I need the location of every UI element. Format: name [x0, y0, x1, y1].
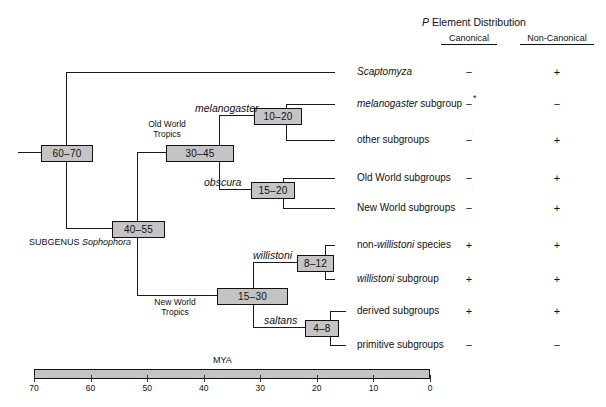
mya-tick-label-70: 70 — [24, 384, 44, 393]
clade-label-obscura: obscura — [204, 176, 241, 188]
mark-non-canonical-old-world-subgroups: + — [550, 173, 564, 184]
subgenus-label-prefix: SUBGENUS — [29, 237, 82, 247]
node-box-willistoni: 8–12 — [297, 255, 334, 272]
mark-non-canonical-other-subgroups: + — [550, 135, 564, 146]
mark-non-canonical-scaptomyza: + — [550, 67, 564, 78]
mark-canonical-scaptomyza: − — [462, 67, 476, 78]
mark-canonical-derived-subgroups: + — [462, 306, 476, 317]
mark-value: + — [554, 66, 560, 78]
node-box-sophophora: 40–55 — [112, 221, 165, 238]
mya-tick-0 — [430, 375, 431, 382]
mark-non-canonical-primitive-subgroups: − — [550, 340, 564, 351]
subgenus-label: SUBGENUS Sophophora — [29, 237, 131, 247]
branch-obscura — [219, 189, 252, 190]
geo-label-old-world-tropics: Old World Tropics — [137, 119, 197, 139]
geo-label-new-world-tropics: New World Tropics — [145, 297, 205, 317]
distribution-title: P Element Distribution — [422, 16, 526, 28]
branch-melanogaster — [219, 115, 255, 116]
mark-non-canonical-non-willistoni-species: + — [550, 240, 564, 251]
mya-tick-20 — [317, 375, 318, 382]
column-header-non-canonical: Non-Canonical — [520, 33, 594, 45]
mark-value: − — [466, 172, 472, 184]
taxon-old-world-subgroups-pre: Old World subgroups — [357, 172, 451, 183]
mark-value: − — [466, 66, 472, 78]
column-header-canonical: Canonical — [441, 33, 497, 45]
mark-value: + — [554, 239, 560, 251]
taxon-willistoni-subgroup-italic: willistoni — [357, 273, 394, 284]
branch-new-world-subgroups — [283, 208, 335, 209]
mark-value: + — [554, 172, 560, 184]
mark-value: − — [466, 134, 472, 146]
node-box-root: 60–70 — [41, 145, 93, 162]
scale-unit-label: MYA — [213, 355, 232, 365]
branch-scaptomyza — [66, 72, 335, 73]
mark-canonical-other-subgroups: − — [462, 135, 476, 146]
mark-canonical-melanogaster-subgroup: −* — [462, 99, 476, 110]
taxon-label-derived-subgroups: derived subgroups — [357, 305, 439, 316]
mark-value: + — [554, 305, 560, 317]
mya-tick-label-10: 10 — [363, 384, 383, 393]
mya-tick-70 — [34, 375, 35, 382]
mya-tick-label-50: 50 — [137, 384, 157, 393]
distribution-title-gene: P — [422, 16, 429, 28]
branch-saltans — [253, 327, 306, 328]
node-box-new-world: 15–30 — [217, 288, 288, 305]
mark-value: + — [554, 273, 560, 285]
mya-tick-30 — [260, 375, 261, 382]
clade-label-melanogaster: melanogaster — [195, 102, 259, 114]
geo-label-new-world-line1: New World — [145, 297, 205, 307]
mark-non-canonical-melanogaster-subgroup: − — [550, 99, 564, 110]
mark-canonical-willistoni-subgroup: + — [462, 274, 476, 285]
branch-willistoni — [253, 262, 298, 263]
mya-tick-40 — [204, 375, 205, 382]
root-stub-branch — [18, 152, 42, 153]
taxon-willistoni-subgroup-post: subgroup — [394, 273, 438, 284]
subgenus-label-name: Sophophora — [82, 237, 131, 247]
mark-non-canonical-new-world-subgroups: + — [550, 203, 564, 214]
mya-tick-label-0: 0 — [420, 384, 440, 393]
taxon-new-world-subgroups-pre: New World subgroups — [357, 202, 455, 213]
node-box-melanogaster: 10–20 — [254, 108, 302, 125]
taxon-label-scaptomyza: Scaptomyza — [357, 66, 412, 77]
geo-label-old-world-line1: Old World — [137, 119, 197, 129]
taxon-label-new-world-subgroups: New World subgroups — [357, 202, 455, 213]
taxon-scaptomyza-italic: Scaptomyza — [357, 66, 412, 77]
taxon-label-primitive-subgroups: primitive subgroups — [357, 339, 444, 350]
branch-derived-subgroups — [330, 311, 346, 312]
taxon-non-willistoni-post: species — [414, 239, 451, 250]
geo-label-new-world-line2: Tropics — [145, 307, 205, 317]
branch-old-world-subgroups — [283, 178, 335, 179]
taxon-non-willistoni-italic: willistoni — [377, 239, 414, 250]
mya-scale-bar — [34, 369, 430, 379]
taxon-other-subgroups-pre: other subgroups — [357, 134, 429, 145]
taxon-label-non-willistoni-species: non-willistoni species — [357, 239, 451, 250]
distribution-title-rest: Element Distribution — [429, 16, 526, 28]
mya-tick-label-40: 40 — [194, 384, 214, 393]
mark-canonical-primitive-subgroups: − — [462, 340, 476, 351]
mark-value: − — [554, 98, 560, 110]
mark-value: + — [554, 134, 560, 146]
mark-canonical-new-world-subgroups: − — [462, 203, 476, 214]
taxon-label-other-subgroups: other subgroups — [357, 134, 429, 145]
node-box-obscura: 15–20 — [251, 182, 295, 199]
geo-label-old-world-line2: Tropics — [137, 129, 197, 139]
clade-label-willistoni: willistoni — [253, 249, 292, 261]
mark-value: − — [466, 202, 472, 214]
taxon-non-willistoni-pre: non- — [357, 239, 377, 250]
mya-tick-label-30: 30 — [250, 384, 270, 393]
branch-primitive-subgroups — [330, 345, 346, 346]
branch-new-world-tropics — [137, 295, 218, 296]
node-box-saltans: 4–8 — [305, 320, 339, 337]
taxon-label-old-world-subgroups: Old World subgroups — [357, 172, 451, 183]
mark-value: + — [466, 239, 472, 251]
mya-tick-10 — [373, 375, 374, 382]
branch-sophophora — [66, 228, 113, 229]
taxon-label-melanogaster-subgroup: melanogaster subgroup — [357, 98, 462, 109]
mya-tick-label-60: 60 — [81, 384, 101, 393]
mark-value: + — [554, 202, 560, 214]
mark-value: + — [466, 273, 472, 285]
branch-old-world-tropics — [137, 152, 167, 153]
figure-canvas: P Element Distribution Canonical Non-Can… — [0, 0, 606, 407]
mya-tick-label-20: 20 — [307, 384, 327, 393]
mark-value: − — [466, 98, 472, 110]
